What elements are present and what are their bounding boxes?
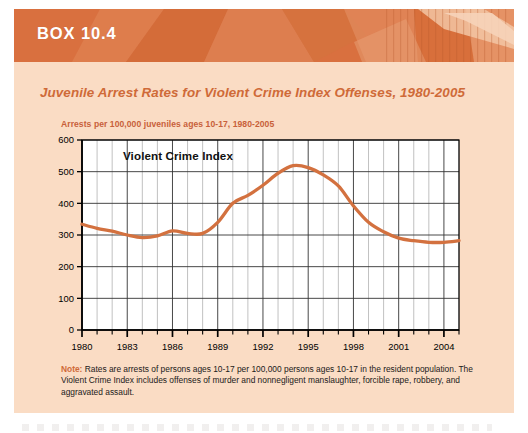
y-axis-tick-label: 100 — [58, 293, 74, 304]
line-chart: 0100200300400500600198019831986198919921… — [14, 9, 514, 413]
y-axis-tick-label: 400 — [58, 198, 74, 209]
page-root: BOX 10.4 Juvenile Arrest Rates for Viole… — [0, 0, 528, 433]
x-axis-tick-label: 2004 — [433, 341, 454, 352]
x-axis: 198019831986198919921995199820012004 — [72, 330, 459, 352]
y-axis-tick-label: 0 — [69, 324, 74, 335]
y-axis-tick-label: 600 — [58, 134, 74, 145]
x-axis-tick-label: 1995 — [298, 341, 319, 352]
x-axis-tick-label: 1989 — [207, 341, 228, 352]
x-axis-tick-label: 1986 — [162, 341, 183, 352]
y-axis-tick-label: 200 — [58, 261, 74, 272]
x-axis-tick-label: 1983 — [117, 341, 138, 352]
chart-container: 0100200300400500600198019831986198919921… — [14, 9, 514, 413]
series-label-violent-crime-index: Violent Crime Index — [123, 149, 233, 162]
note-keyword: Note: — [61, 364, 82, 374]
x-axis-tick-label: 2001 — [388, 341, 409, 352]
box-panel: BOX 10.4 Juvenile Arrest Rates for Viole… — [14, 9, 514, 413]
x-axis-tick-label: 1980 — [72, 341, 93, 352]
chart-note: Note: Rates are arrests of persons ages … — [61, 364, 491, 398]
page-bleed-artifact — [22, 424, 492, 431]
box-number-label: BOX 10.4 — [37, 24, 117, 43]
note-text: Rates are arrests of persons ages 10-17 … — [61, 364, 473, 397]
x-axis-tick-label: 1998 — [343, 341, 364, 352]
x-axis-tick-label: 1992 — [253, 341, 274, 352]
y-axis: 0100200300400500600 — [58, 134, 82, 335]
y-axis-tick-label: 300 — [58, 229, 74, 240]
y-axis-tick-label: 500 — [58, 166, 74, 177]
